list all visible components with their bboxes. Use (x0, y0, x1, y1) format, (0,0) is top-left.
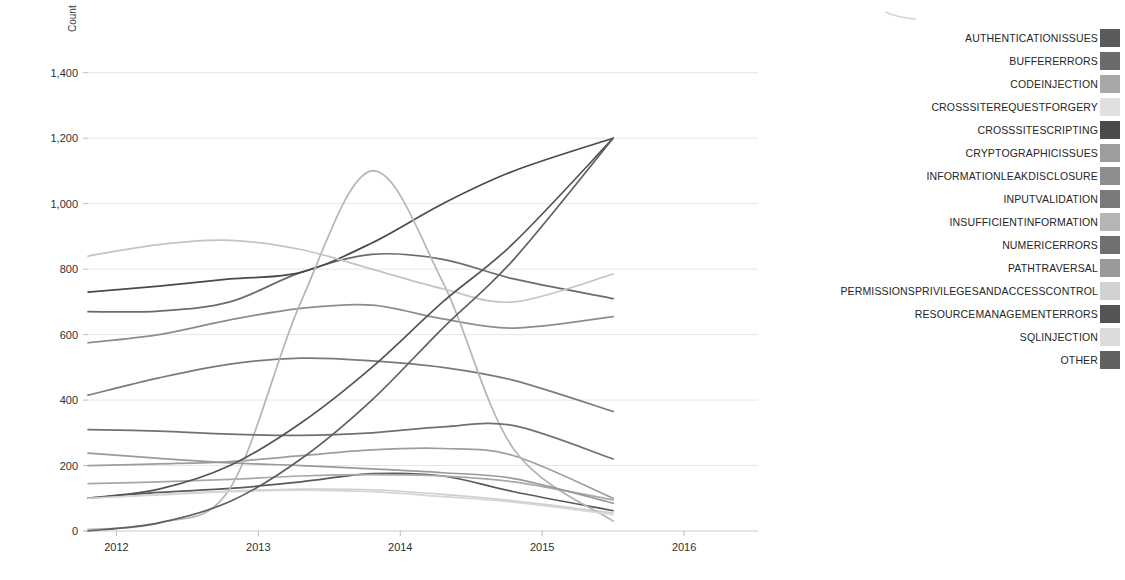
legend-item-label: BUFFERERRORS (1009, 55, 1098, 67)
series-line (88, 423, 613, 459)
legend-item[interactable]: BUFFERERRORS (800, 49, 1125, 72)
scan-artifact-mark (884, 11, 918, 20)
y-tick-label: 1,000 (50, 198, 78, 210)
series-line (88, 240, 613, 302)
x-tick-label: 2013 (246, 541, 270, 553)
legend-color-swatch (1100, 190, 1120, 208)
legend-item[interactable]: PERMISSIONSPRIVILEGESANDACCESSCONTROL (800, 279, 1125, 302)
legend-item-label: INPUTVALIDATION (1003, 193, 1098, 205)
chart-screenshot-root: 02004006008001,0001,2001,400 20122013201… (0, 0, 1125, 580)
legend-color-swatch (1100, 75, 1120, 93)
legend-color-swatch (1100, 328, 1120, 346)
legend-item-label: PATHTRAVERSAL (1008, 262, 1098, 274)
y-tick-marks (83, 73, 88, 531)
legend-item-label: INFORMATIONLEAKDISCLOSURE (926, 170, 1098, 182)
legend-color-swatch (1100, 213, 1120, 231)
legend-color-swatch (1100, 282, 1120, 300)
legend-item[interactable]: RESOURCEMANAGEMENTERRORS (800, 302, 1125, 325)
legend-item-label: RESOURCEMANAGEMENTERRORS (915, 308, 1098, 320)
legend-color-swatch (1100, 121, 1120, 139)
legend-color-swatch (1100, 98, 1120, 116)
legend-item[interactable]: INFORMATIONLEAKDISCLOSURE (800, 164, 1125, 187)
legend-item-label: PERMISSIONSPRIVILEGESANDACCESSCONTROL (840, 285, 1098, 297)
legend-color-swatch (1100, 52, 1120, 70)
y-tick-label: 0 (72, 525, 78, 537)
legend-color-swatch (1100, 351, 1120, 369)
legend-color-swatch (1100, 305, 1120, 323)
legend-item-label: CRYPTOGRAPHICISSUES (965, 147, 1098, 159)
legend-item[interactable]: CROSSSITEREQUESTFORGERY (800, 95, 1125, 118)
legend-item-label: AUTHENTICATIONISSUES (965, 32, 1098, 44)
legend-color-swatch (1100, 167, 1120, 185)
y-axis-title: Count (67, 5, 78, 32)
legend-item-label: INSUFFICIENTINFORMATION (950, 216, 1099, 228)
y-tick-label: 200 (60, 460, 78, 472)
legend-item[interactable]: CODEINJECTION (800, 72, 1125, 95)
x-tick-label: 2012 (104, 541, 128, 553)
legend-item-label: OTHER (1061, 354, 1099, 366)
x-tick-label: 2014 (388, 541, 412, 553)
legend-item[interactable]: SQLINJECTION (800, 325, 1125, 348)
legend-item[interactable]: CRYPTOGRAPHICISSUES (800, 141, 1125, 164)
legend-item[interactable]: INSUFFICIENTINFORMATION (800, 210, 1125, 233)
chart-legend: AUTHENTICATIONISSUESBUFFERERRORSCODEINJE… (800, 26, 1125, 371)
legend-item[interactable]: PATHTRAVERSAL (800, 256, 1125, 279)
legend-item[interactable]: AUTHENTICATIONISSUES (800, 26, 1125, 49)
legend-item[interactable]: CROSSSITESCRIPTING (800, 118, 1125, 141)
y-tick-label: 800 (60, 263, 78, 275)
legend-color-swatch (1100, 144, 1120, 162)
legend-item-label: CODEINJECTION (1010, 78, 1098, 90)
x-tick-labels: 20122013201420152016 (104, 541, 696, 553)
line-chart-panel: 02004006008001,0001,2001,400 20122013201… (0, 0, 800, 580)
legend-item-label: NUMERICERRORS (1002, 239, 1098, 251)
y-tick-label: 1,400 (50, 67, 78, 79)
plot-area: 02004006008001,0001,2001,400 20122013201… (0, 0, 800, 580)
legend-item-label: CROSSSITEREQUESTFORGERY (931, 101, 1098, 113)
legend-color-swatch (1100, 29, 1120, 47)
x-axis-group (83, 531, 758, 536)
legend-item[interactable]: INPUTVALIDATION (800, 187, 1125, 210)
y-tick-labels: 02004006008001,0001,2001,400 (50, 67, 78, 537)
y-tick-label: 400 (60, 394, 78, 406)
legend-item[interactable]: NUMERICERRORS (800, 233, 1125, 256)
legend-item[interactable]: OTHER (800, 348, 1125, 371)
gridlines-group (88, 73, 758, 466)
x-tick-label: 2015 (530, 541, 554, 553)
legend-color-swatch (1100, 236, 1120, 254)
y-tick-label: 1,200 (50, 132, 78, 144)
legend-item-label: CROSSSITESCRIPTING (977, 124, 1098, 136)
x-tick-label: 2016 (672, 541, 696, 553)
legend-color-swatch (1100, 259, 1120, 277)
y-tick-label: 600 (60, 329, 78, 341)
legend-item-label: SQLINJECTION (1020, 331, 1098, 343)
